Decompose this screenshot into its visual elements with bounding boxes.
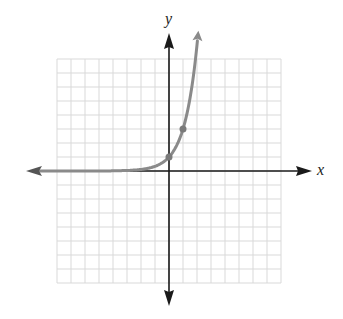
y-axis-up-arrow-icon — [164, 33, 174, 49]
y-axis — [164, 33, 174, 306]
y-axis-label: y — [163, 10, 173, 28]
exponential-curve — [36, 41, 197, 171]
data-point — [180, 126, 187, 133]
x-axis-label: x — [316, 161, 324, 178]
data-point — [166, 154, 173, 161]
x-axis-right-arrow-icon — [296, 166, 312, 176]
graph: y x — [0, 0, 343, 319]
y-axis-down-arrow-icon — [164, 290, 174, 306]
